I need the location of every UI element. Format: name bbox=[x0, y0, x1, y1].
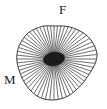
label-m: M bbox=[4, 73, 16, 86]
label-f: F bbox=[59, 3, 66, 16]
figure-container: F M bbox=[0, 0, 107, 109]
radial-ray-diagram bbox=[0, 0, 107, 109]
